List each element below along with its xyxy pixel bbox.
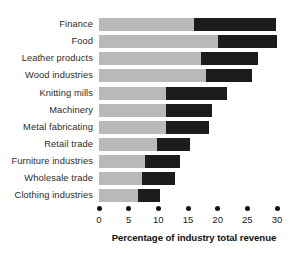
category-label-clothing-industries: Clothing industries — [15, 187, 93, 204]
x-axis-title: Percentage of industry total revenue — [99, 232, 289, 243]
category-label-leather-products: Leather products — [22, 50, 93, 67]
bar-segment-light — [99, 18, 194, 31]
plot-area — [99, 16, 277, 204]
bar-track — [99, 104, 277, 117]
bar-segment-dark — [194, 18, 276, 31]
category-label-wholesale-trade: Wholesale trade — [24, 170, 93, 187]
category-label-food: Food — [71, 33, 93, 50]
bar-segment-light — [99, 138, 157, 151]
bar-track — [99, 35, 277, 48]
bar-segment-dark — [157, 138, 190, 151]
bar-track — [99, 121, 277, 134]
bar-row — [99, 136, 277, 153]
category-label-retail-trade: Retail trade — [44, 136, 93, 153]
bar-segment-dark — [138, 189, 160, 202]
bar-segment-light — [99, 104, 166, 117]
bar-segment-dark — [206, 69, 252, 82]
bar-segment-dark — [145, 155, 180, 168]
bar-row — [99, 102, 277, 119]
category-label-metal-fabricating: Metal fabricating — [23, 119, 93, 136]
bar-track — [99, 87, 277, 100]
x-tick-label: 25 — [242, 214, 253, 225]
bar-segment-light — [99, 121, 166, 134]
bar-row — [99, 187, 277, 204]
bar-segment-light — [99, 172, 142, 185]
x-tick-label: 30 — [272, 214, 283, 225]
bar-row — [99, 50, 277, 67]
category-axis-labels: Finance Food Leather products Wood indus… — [0, 16, 93, 204]
x-tick-dot — [275, 206, 280, 211]
category-label-finance: Finance — [59, 16, 93, 33]
x-tick-dot — [97, 206, 102, 211]
x-tick-label: 15 — [183, 214, 194, 225]
bar-row — [99, 67, 277, 84]
x-axis: 0 5 10 15 20 25 30 — [99, 206, 277, 230]
x-tick-label: 10 — [153, 214, 164, 225]
bar-row — [99, 85, 277, 102]
bar-row — [99, 153, 277, 170]
bar-segment-dark — [201, 52, 258, 65]
x-tick-label: 5 — [126, 214, 131, 225]
bar-track — [99, 138, 277, 151]
x-tick-label: 0 — [96, 214, 101, 225]
x-tick-dot — [186, 206, 191, 211]
category-label-wood-industries: Wood industries — [25, 67, 93, 84]
x-tick-dot — [215, 206, 220, 211]
bar-segment-dark — [218, 35, 277, 48]
bar-track — [99, 172, 277, 185]
category-label-machinery: Machinery — [49, 102, 93, 119]
bar-chart: Finance Food Leather products Wood indus… — [0, 0, 306, 258]
bar-row — [99, 170, 277, 187]
bar-track — [99, 18, 277, 31]
bar-segment-light — [99, 87, 166, 100]
category-label-knitting-mills: Knitting mills — [39, 85, 93, 102]
bar-row — [99, 16, 277, 33]
bar-track — [99, 69, 277, 82]
bar-segment-light — [99, 69, 206, 82]
bar-segment-light — [99, 189, 138, 202]
bar-track — [99, 155, 277, 168]
bar-segment-light — [99, 35, 218, 48]
category-label-furniture-industries: Furniture industries — [11, 153, 93, 170]
bar-segment-light — [99, 52, 201, 65]
bar-track — [99, 52, 277, 65]
bar-track — [99, 189, 277, 202]
bar-segment-light — [99, 155, 145, 168]
x-tick-dot — [245, 206, 250, 211]
bar-segment-dark — [166, 121, 209, 134]
x-tick-dot — [126, 206, 131, 211]
bar-row — [99, 119, 277, 136]
x-tick-label: 20 — [212, 214, 223, 225]
bar-row — [99, 33, 277, 50]
bar-segment-dark — [166, 104, 212, 117]
x-tick-dot — [156, 206, 161, 211]
bar-segment-dark — [142, 172, 175, 185]
bar-segment-dark — [166, 87, 227, 100]
